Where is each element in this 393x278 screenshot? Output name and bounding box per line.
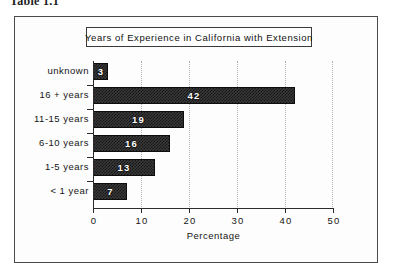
gridline-50 (332, 61, 334, 207)
bar-11-15-years[interactable]: 19 (93, 111, 184, 128)
x-axis-tick-label-20: 20 (184, 215, 197, 226)
y-axis-tick (87, 133, 94, 134)
x-axis-tick-label-10: 10 (136, 215, 149, 226)
bar-value-label: 3 (98, 66, 104, 77)
figure-caption: Table 1.1 (10, 0, 59, 9)
x-axis-title: Percentage (93, 230, 334, 241)
x-axis-line (93, 208, 334, 209)
bar-value-label: 7 (107, 186, 113, 197)
y-axis-label-1-5: 1-5 years (17, 161, 89, 172)
bar-unknown[interactable]: 3 (93, 63, 108, 80)
figure-frame: Years of Experience in California with E… (14, 16, 378, 263)
x-axis-tick (237, 209, 238, 213)
gridline-30 (237, 61, 239, 207)
y-axis-label-under-1: < 1 year (17, 185, 89, 196)
bar-16-plus-years[interactable]: 42 (93, 87, 295, 104)
bar-value-label: 13 (118, 162, 131, 173)
y-axis-label-6-10: 6-10 years (17, 137, 89, 148)
y-axis-label-11-15: 11-15 years (17, 113, 89, 124)
x-axis-tick-labels: 0 10 20 30 40 50 (93, 215, 335, 229)
y-axis-tick (87, 181, 94, 182)
y-axis-label-unknown: unknown (17, 65, 89, 76)
x-axis-tick-label-0: 0 (91, 215, 97, 226)
bar-under-1-year[interactable]: 7 (93, 183, 127, 200)
gridline-40 (285, 61, 287, 207)
bar-6-10-years[interactable]: 16 (93, 135, 170, 152)
y-axis-category-labels: unknown 16 + years 11-15 years 6-10 year… (15, 61, 89, 209)
bar-value-label: 42 (188, 90, 201, 101)
chart-title: Years of Experience in California with E… (85, 32, 313, 43)
x-axis-tick (93, 209, 94, 213)
x-axis-tick (333, 209, 334, 213)
y-axis-tick (87, 85, 94, 86)
gridline-10 (141, 61, 143, 207)
y-axis-tick (87, 157, 94, 158)
plot-area: 3 42 19 16 13 7 (93, 61, 333, 207)
y-axis-line (93, 61, 94, 209)
x-axis-tick (189, 209, 190, 213)
bar-1-5-years[interactable]: 13 (93, 159, 155, 176)
x-axis-tick-label-40: 40 (280, 215, 293, 226)
bar-value-label: 19 (132, 114, 145, 125)
y-axis-label-16-plus: 16 + years (17, 89, 89, 100)
chart-title-box: Years of Experience in California with E… (86, 27, 312, 47)
x-axis-tick (141, 209, 142, 213)
gridline-20 (189, 61, 191, 207)
y-axis-tick (87, 109, 94, 110)
x-axis-tick-label-30: 30 (232, 215, 245, 226)
x-axis-tick-label-50: 50 (328, 215, 341, 226)
x-axis-tick (285, 209, 286, 213)
bar-value-label: 16 (125, 138, 138, 149)
